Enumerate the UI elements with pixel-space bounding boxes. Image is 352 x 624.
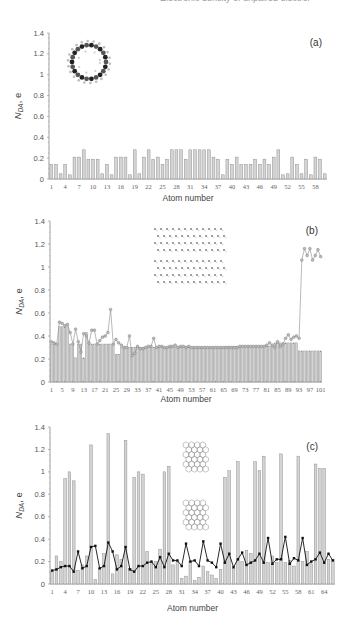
bar: [297, 456, 300, 584]
bar: [103, 554, 106, 584]
bar: [314, 464, 317, 584]
data-point: [103, 565, 105, 567]
x-tick-label: 34: [191, 588, 198, 595]
data-point: [280, 558, 282, 560]
y-tick-label: 0.6: [35, 512, 45, 521]
data-point: [77, 550, 79, 552]
bar: [232, 568, 235, 584]
y-tick-label: 1: [41, 467, 45, 476]
data-point: [111, 550, 113, 552]
bar: [107, 434, 110, 584]
bar: [51, 572, 54, 584]
bar: [258, 471, 261, 584]
data-point: [193, 559, 195, 561]
x-tick-label: 19: [127, 588, 134, 595]
data-point: [228, 553, 230, 555]
x-tick-label: 28: [166, 588, 173, 595]
x-tick-label: 16: [114, 588, 121, 595]
bar: [150, 563, 153, 584]
data-point: [129, 568, 131, 570]
bar: [180, 578, 183, 584]
x-tick-label: 37: [204, 588, 211, 595]
x-tick-label: 52: [269, 588, 276, 595]
data-point: [245, 564, 247, 566]
data-point: [202, 540, 204, 542]
data-point: [159, 556, 161, 558]
data-point: [120, 565, 122, 567]
data-point: [254, 559, 256, 561]
bar: [241, 562, 244, 584]
bar: [142, 474, 145, 584]
data-point: [323, 561, 325, 563]
data-point: [124, 546, 126, 548]
data-point: [258, 553, 260, 555]
data-point: [306, 564, 308, 566]
data-point: [86, 565, 88, 567]
data-point: [133, 570, 135, 572]
bar: [94, 580, 97, 584]
bar: [77, 571, 80, 584]
bar: [129, 568, 132, 584]
molecule-inset-armchair: [183, 442, 208, 472]
bar: [284, 563, 287, 584]
data-point: [168, 553, 170, 555]
y-tick-label: 1.2: [35, 445, 45, 454]
x-tick-label: 55: [282, 588, 289, 595]
data-point: [181, 565, 183, 567]
bar: [124, 440, 127, 584]
x-tick-label: 61: [308, 588, 315, 595]
data-point: [206, 559, 208, 561]
data-point: [327, 553, 329, 555]
data-point: [60, 566, 62, 568]
bar: [293, 566, 296, 584]
data-point: [276, 558, 278, 560]
bar: [211, 575, 214, 584]
bar: [198, 577, 201, 584]
data-point: [301, 537, 303, 539]
bar: [267, 563, 270, 584]
molecule-inset-zigzag: [183, 500, 208, 530]
bar: [202, 566, 205, 584]
data-point: [94, 545, 96, 547]
data-point: [198, 565, 200, 567]
x-tick-label: 10: [88, 588, 95, 595]
x-tick-label: 22: [140, 588, 147, 595]
x-tick-label: 13: [101, 588, 108, 595]
bar: [98, 568, 101, 584]
x-tick-label: 43: [230, 588, 237, 595]
data-point: [288, 563, 290, 565]
x-tick-label: 64: [321, 588, 328, 595]
y-tick-label: 0.8: [35, 490, 45, 499]
chart-panel-c: 00.20.40.60.811.21.414710131619222528313…: [0, 0, 352, 624]
bar: [245, 550, 248, 584]
line-series-c: [51, 536, 334, 573]
bar: [249, 554, 252, 584]
data-point: [314, 558, 316, 560]
panel-label: (c): [306, 441, 318, 452]
y-tick-label: 0.2: [35, 557, 45, 566]
bar: [228, 471, 231, 584]
bar: [111, 574, 114, 584]
bar: [167, 466, 170, 584]
x-tick-label: 46: [243, 588, 250, 595]
bar: [189, 562, 192, 584]
data-point: [237, 558, 239, 560]
bar: [237, 462, 240, 584]
bar: [224, 477, 227, 584]
bar: [176, 562, 179, 584]
bar: [185, 576, 188, 584]
data-point: [185, 542, 187, 544]
data-point: [267, 537, 269, 539]
bar: [219, 569, 222, 584]
data-point: [293, 557, 295, 559]
x-axis-label: Atom number: [167, 603, 218, 613]
x-tick-label: 49: [256, 588, 263, 595]
data-point: [297, 559, 299, 561]
data-point: [137, 565, 139, 567]
y-tick-label: 0.4: [35, 535, 45, 544]
plot-area: 00.20.40.60.811.21.414710131619222528313…: [13, 423, 335, 614]
x-tick-label: 40: [217, 588, 224, 595]
data-point: [73, 570, 75, 572]
bar: [332, 559, 335, 584]
data-point: [215, 566, 217, 568]
